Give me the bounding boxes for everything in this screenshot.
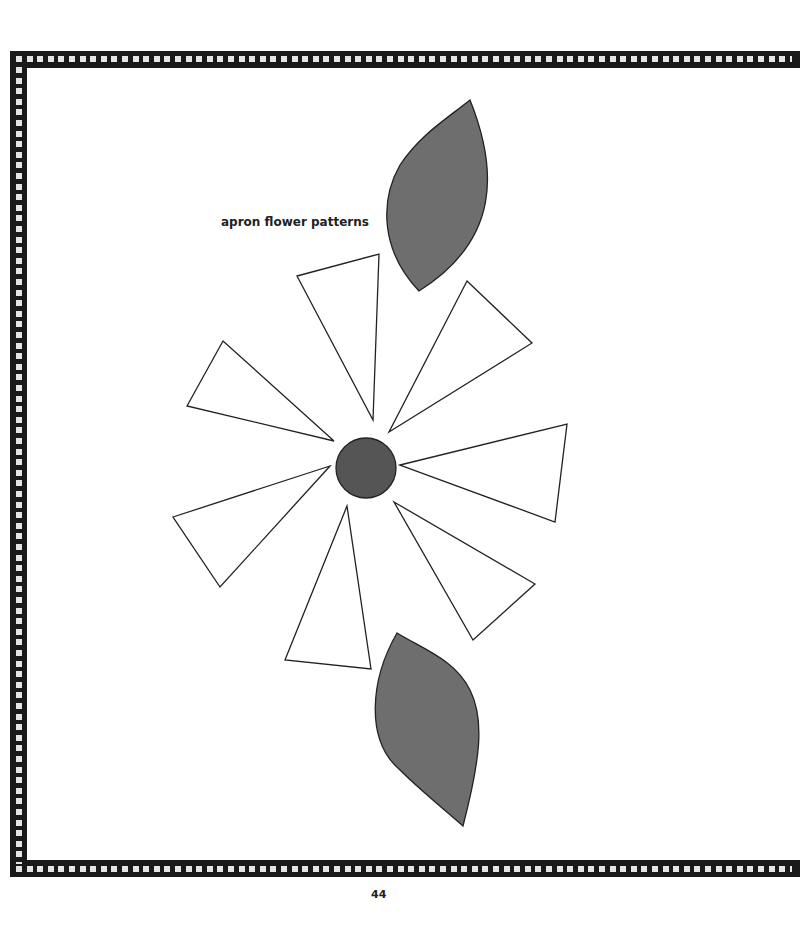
- petal-upper-left: [187, 341, 334, 441]
- petal-lower-right: [394, 502, 535, 640]
- leaf-top: [387, 100, 488, 291]
- leaf-bottom: [375, 633, 479, 826]
- page-number: 44: [371, 888, 386, 901]
- petal-lower-left: [173, 466, 330, 587]
- petal-upper: [297, 254, 379, 420]
- petal-lower: [285, 506, 371, 669]
- petal-upper-right: [389, 281, 532, 432]
- petal-right: [400, 424, 567, 522]
- flower-center: [336, 438, 396, 498]
